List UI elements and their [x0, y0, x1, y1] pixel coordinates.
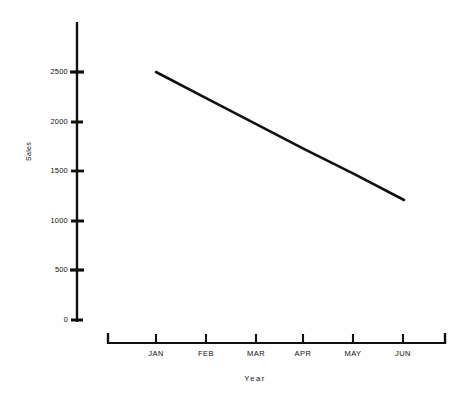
y-tick-label-2500: 2500	[28, 67, 68, 76]
y-tick-label-500: 500	[28, 265, 68, 274]
y-tick-label-1500: 1500	[28, 166, 68, 175]
x-tick-label-jun: JUN	[383, 349, 423, 358]
x-tick-label-jan: JAN	[136, 349, 176, 358]
y-tick-label-2000: 2000	[28, 117, 68, 126]
data-series-sales-line	[156, 72, 404, 200]
x-tick-label-mar: MAR	[236, 349, 276, 358]
y-tick-label-1000: 1000	[28, 216, 68, 225]
x-tick-label-apr: APR	[283, 349, 323, 358]
x-axis-title: Year	[215, 374, 295, 383]
chart-plot-area	[0, 0, 474, 398]
x-tick-label-may: MAY	[333, 349, 373, 358]
y-axis-title: Sales	[25, 132, 32, 172]
sales-line-chart: 2500 2000 1500 1000 500 0 JAN FEB MAR AP…	[0, 0, 474, 398]
x-tick-label-feb: FEB	[186, 349, 226, 358]
y-tick-label-0: 0	[28, 315, 68, 324]
